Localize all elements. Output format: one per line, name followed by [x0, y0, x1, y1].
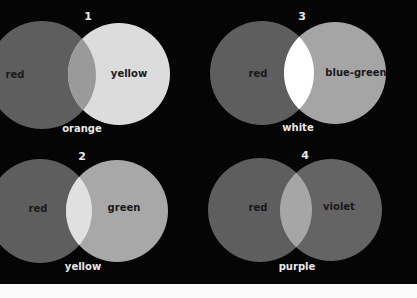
- panel-2-mix-label: yellow: [65, 262, 101, 272]
- panel-1-mix-label: orange: [62, 124, 102, 134]
- panel-1-right-label: yellow: [111, 69, 147, 79]
- panel-4-right-label: violet: [323, 202, 355, 212]
- panel-3-mix-label: white: [282, 123, 313, 133]
- panel-1-number: 1: [84, 11, 92, 22]
- panel-3-right-label: blue-green: [325, 68, 386, 78]
- panel-4-number: 4: [301, 150, 309, 161]
- panel-2-left-label: red: [29, 204, 48, 214]
- panel-2-right-label: green: [108, 203, 141, 213]
- panel-2-venn: [0, 159, 168, 263]
- venn-circles: [0, 0, 417, 284]
- panel-3-left-label: red: [249, 69, 268, 79]
- panel-2-number: 2: [78, 151, 86, 162]
- bottom-margin: [0, 284, 417, 298]
- panel-4-mix-label: purple: [279, 262, 316, 272]
- panel-3-number: 3: [298, 11, 306, 22]
- panel-4-venn: [208, 158, 382, 262]
- color-mixing-diagram: 1 red yellow orange 2 red green yellow 3…: [0, 0, 417, 284]
- panel-1-left-label: red: [6, 70, 25, 80]
- panel-4-left-label: red: [249, 203, 268, 213]
